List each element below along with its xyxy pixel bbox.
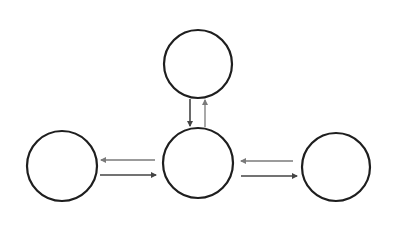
node-link-diagram bbox=[0, 0, 397, 242]
node-left bbox=[27, 131, 97, 201]
node-center bbox=[163, 128, 233, 198]
node-top bbox=[164, 30, 232, 98]
node-right bbox=[302, 133, 370, 201]
